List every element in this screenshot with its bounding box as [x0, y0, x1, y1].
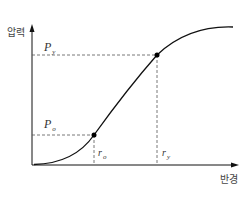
ry-label: ry: [162, 148, 170, 158]
pressure-curve: [34, 27, 233, 165]
po-label: Po: [44, 118, 56, 130]
ro-label: ro: [98, 148, 106, 158]
x-axis-label: 반경: [220, 175, 238, 185]
yield-point: [155, 53, 160, 58]
onset-point: [92, 133, 97, 138]
y-axis-arrow-icon: [30, 24, 35, 32]
pressure-radius-diagram: [0, 0, 251, 198]
py-label: Py: [44, 41, 55, 53]
x-axis-arrow-icon: [231, 163, 239, 168]
y-axis-label: 압력: [7, 28, 25, 38]
